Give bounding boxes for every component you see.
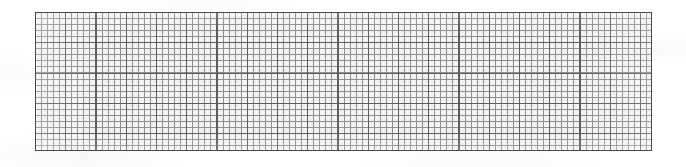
grid-lines: [35, 12, 652, 151]
grid-border-frame: [35, 12, 652, 151]
page-background: [0, 0, 686, 167]
scan-fade-overlay: [35, 12, 652, 151]
graph-paper-sheet: [35, 12, 652, 151]
